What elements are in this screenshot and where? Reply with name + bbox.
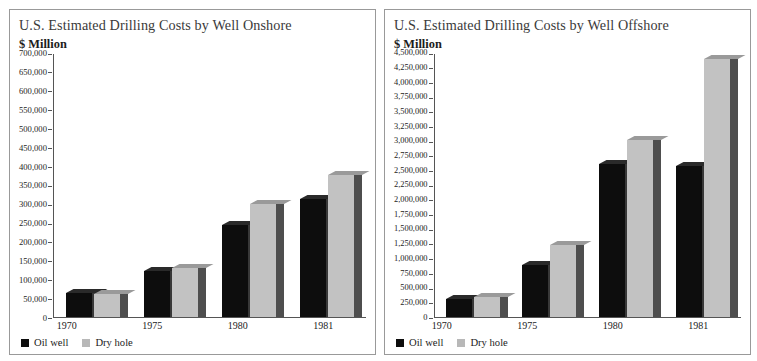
bar-face bbox=[172, 268, 198, 317]
bar-dry-1981[interactable] bbox=[328, 175, 354, 317]
bar-dry-1980[interactable] bbox=[250, 204, 276, 317]
plot-area-offshore: 4,500,0004,250,0004,000,0003,750,0003,50… bbox=[394, 54, 741, 319]
legend-offshore: Oil wellDry hole bbox=[394, 333, 741, 350]
bar-dry-1975[interactable] bbox=[550, 245, 576, 317]
bar-face bbox=[627, 140, 653, 317]
legend-label: Oil well bbox=[34, 337, 68, 349]
bar-side-face bbox=[653, 136, 661, 317]
x-tick-label: 1980 bbox=[195, 320, 281, 332]
bar-side-face bbox=[198, 264, 206, 317]
bar-oil-1981[interactable] bbox=[676, 166, 702, 317]
chart-panel-offshore: U.S. Estimated Drilling Costs by Well Of… bbox=[384, 9, 751, 355]
figure-sheet: U.S. Estimated Drilling Costs by Well On… bbox=[0, 0, 757, 361]
bars-layer-offshore bbox=[435, 54, 742, 318]
legend-item-oil: Oil well bbox=[21, 337, 68, 349]
panel-title-offshore: U.S. Estimated Drilling Costs by Well Of… bbox=[394, 17, 694, 34]
x-tick-label: 1970 bbox=[399, 320, 485, 332]
x-axis-labels-offshore: 1970197519801981 bbox=[399, 318, 741, 332]
bars-layer-onshore bbox=[54, 54, 366, 318]
bar-dry-1981[interactable] bbox=[704, 59, 730, 317]
bar-face bbox=[94, 294, 120, 317]
bar-oil-1975[interactable] bbox=[522, 265, 548, 317]
legend-label: Oil well bbox=[409, 337, 443, 349]
x-tick-label: 1981 bbox=[281, 320, 367, 332]
bar-oil-1981[interactable] bbox=[300, 199, 326, 317]
bar-side-face bbox=[276, 200, 284, 317]
plot-canvas-onshore bbox=[53, 54, 366, 319]
bar-dry-1970[interactable] bbox=[94, 294, 120, 317]
axis-unit-onshore: $ Million bbox=[19, 37, 366, 51]
legend-swatch-dry-icon bbox=[82, 339, 90, 347]
bar-dry-1980[interactable] bbox=[627, 140, 653, 317]
bar-side-face bbox=[354, 171, 362, 317]
bar-side-face bbox=[576, 241, 584, 317]
x-tick-label: 1975 bbox=[485, 320, 571, 332]
legend-item-oil: Oil well bbox=[396, 337, 443, 349]
bar-oil-1970[interactable] bbox=[66, 293, 92, 317]
bar-group bbox=[664, 54, 741, 318]
bar-face bbox=[522, 265, 548, 317]
x-tick-label: 1980 bbox=[570, 320, 656, 332]
bar-oil-1970[interactable] bbox=[446, 299, 472, 317]
bar-face bbox=[704, 59, 730, 317]
bar-face bbox=[66, 293, 92, 317]
bar-group bbox=[54, 54, 132, 318]
bar-group bbox=[132, 54, 210, 318]
legend-item-dry: Dry hole bbox=[457, 337, 507, 349]
bar-dry-1970[interactable] bbox=[474, 297, 500, 317]
x-tick-label: 1975 bbox=[110, 320, 196, 332]
legend-onshore: Oil wellDry hole bbox=[19, 333, 366, 350]
bar-face bbox=[474, 297, 500, 317]
legend-swatch-oil-icon bbox=[21, 339, 29, 347]
legend-swatch-oil-icon bbox=[396, 339, 404, 347]
legend-item-dry: Dry hole bbox=[82, 337, 132, 349]
bar-face bbox=[676, 166, 702, 317]
plot-canvas-offshore bbox=[434, 54, 742, 319]
bar-dry-1975[interactable] bbox=[172, 268, 198, 317]
bar-face bbox=[328, 175, 354, 317]
bar-face bbox=[144, 271, 170, 317]
plot-area-onshore: 700,000650,000600,000550,000500,000450,0… bbox=[19, 54, 366, 319]
legend-swatch-dry-icon bbox=[457, 339, 465, 347]
axis-unit-offshore: $ Million bbox=[394, 37, 741, 51]
bar-oil-1980[interactable] bbox=[599, 164, 625, 317]
bar-face bbox=[550, 245, 576, 317]
bar-group bbox=[288, 54, 366, 318]
bar-group bbox=[435, 54, 512, 318]
panel-title-onshore: U.S. Estimated Drilling Costs by Well On… bbox=[19, 17, 319, 34]
y-axis-offshore: 4,500,0004,250,0004,000,0003,750,0003,50… bbox=[394, 54, 429, 319]
bar-oil-1975[interactable] bbox=[144, 271, 170, 317]
chart-panel-onshore: U.S. Estimated Drilling Costs by Well On… bbox=[9, 9, 376, 355]
x-axis-labels-onshore: 1970197519801981 bbox=[24, 318, 366, 332]
bar-group bbox=[511, 54, 588, 318]
bar-group bbox=[588, 54, 665, 318]
bar-face bbox=[222, 225, 248, 317]
bar-group bbox=[210, 54, 288, 318]
bar-face bbox=[300, 199, 326, 317]
legend-label: Dry hole bbox=[470, 337, 507, 349]
legend-label: Dry hole bbox=[95, 337, 132, 349]
y-axis-onshore: 700,000650,000600,000550,000500,000450,0… bbox=[19, 54, 48, 319]
x-tick-label: 1981 bbox=[656, 320, 742, 332]
bar-face bbox=[446, 299, 472, 317]
bar-side-face bbox=[730, 55, 738, 317]
x-tick-label: 1970 bbox=[24, 320, 110, 332]
bar-face bbox=[250, 204, 276, 317]
bar-oil-1980[interactable] bbox=[222, 225, 248, 317]
bar-face bbox=[599, 164, 625, 317]
